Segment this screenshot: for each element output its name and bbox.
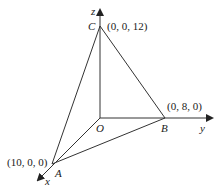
x-axis-label: x xyxy=(44,175,50,187)
edge-AB xyxy=(52,118,165,164)
point-B-coords: (0, 8, 0) xyxy=(167,100,202,113)
edge-AC xyxy=(52,26,100,164)
point-C-coords: (0, 0, 12) xyxy=(107,20,148,33)
z-axis-label: z xyxy=(90,5,96,17)
y-axis-label: y xyxy=(199,122,205,134)
edge-BC xyxy=(100,26,165,118)
tetrahedron-diagram: z y x C (0, 0, 12) O B (0, 8, 0) A (10, … xyxy=(0,0,220,190)
point-O-label: O xyxy=(96,122,104,134)
x-axis xyxy=(38,118,100,180)
point-C-label: C xyxy=(88,20,96,32)
point-A-coords: (10, 0, 0) xyxy=(7,156,48,169)
point-B-label: B xyxy=(161,122,168,134)
point-A-label: A xyxy=(54,167,62,179)
